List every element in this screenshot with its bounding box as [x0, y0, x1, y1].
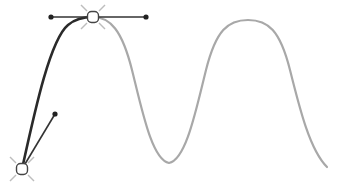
anchor-point-icon[interactable] — [17, 164, 28, 175]
anchor-point-icon[interactable] — [88, 12, 99, 23]
anchor-highlight-ray — [99, 5, 105, 11]
bezier-path-editor-canvas[interactable] — [0, 0, 345, 190]
bottom-anchor[interactable] — [10, 157, 34, 181]
inactive-curve-path[interactable] — [93, 17, 327, 167]
anchor-highlight-ray — [81, 23, 87, 29]
control-handle-point[interactable] — [48, 14, 53, 19]
anchor-highlight-ray — [81, 5, 87, 11]
anchor-highlight-ray — [28, 175, 34, 181]
anchor-highlight-ray — [10, 175, 16, 181]
selected-curve-segment[interactable] — [22, 17, 93, 169]
control-handle-point[interactable] — [143, 14, 148, 19]
anchor-highlight-ray — [10, 157, 16, 163]
control-handle-point[interactable] — [52, 111, 57, 116]
anchor-highlight-ray — [99, 23, 105, 29]
